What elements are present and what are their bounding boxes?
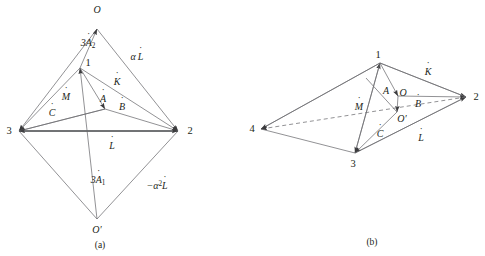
edge-1-to-3-M [19,68,80,131]
panel-b-vertex-3: 3 [350,159,355,170]
panel-b-dashed-diagonal [261,97,466,129]
panel-b-caption: (b) [366,238,377,248]
edge-1-to-2-K [80,68,178,131]
panel-a-edge-label-M: M [62,92,70,102]
panel-a-vertex-1: 1 [85,58,90,69]
panel-b-edge-label-K: K [425,67,432,77]
panel-a-vertex-3: 3 [6,126,11,137]
panel-a-edge-label-C: C [49,108,56,118]
panel-a-vertex-Oprime: O′ [92,225,101,235]
edge-b-mid-to-Oprime [366,78,397,112]
panel-b-vertex-O: O [399,88,406,98]
edge-b-O-to-2-B [398,96,466,97]
panel-b-inner-edges [261,63,466,153]
panel-a-vertex-O: O [93,5,100,15]
panel-a-edge-label-3A2: 3A2 [81,38,96,50]
panel-b-edge-label-B: B [415,99,421,109]
panel-b-vertex-4: 4 [249,124,254,135]
figure-root: O 1 3 2 O′ 3A2 α L K M A B C L 3A1 −α2L … [0,0,485,256]
diagram-vector-layer [0,0,485,256]
panel-b-vertex-1: 1 [375,50,380,61]
edge-center-to-2-B [105,109,178,131]
panel-a-edge-label-A: A [100,94,106,104]
panel-a-edge-label-K: K [114,77,121,87]
panel-a-vertex-2: 2 [187,126,192,137]
panel-b-outer-edges [261,63,466,153]
panel-b-edge-label-M: M [355,102,363,112]
edge-O-to-2-alphaL [97,29,178,131]
edge-b-1-to-4-M [261,63,380,129]
edge-3-to-Oprime [19,131,97,219]
panel-b-edge-label-A: A [383,86,389,96]
panel-a-edge-label-3A1: 3A1 [91,175,106,187]
panel-a-edge-label-alphaL: α L [131,52,144,62]
edge-3-to-center [19,109,105,131]
edge-Oprime-to-1-3A1 [80,68,97,219]
edge-b-2-to-4-dashed [261,97,466,129]
panel-b-edge-label-C: C [377,129,384,139]
panel-a-caption: (a) [95,241,106,251]
panel-b-vertex-Oprime: O′ [397,114,406,124]
panel-a-edge-label-L: L [109,141,115,151]
edge-b-4-to-3 [261,129,355,153]
panel-a-edge-label-neg-alpha2L: −α2L [146,181,167,191]
panel-b-vertex-2: 2 [473,92,478,103]
panel-a-edge-label-B: B [119,102,125,112]
edge-b-2-to-1 [380,63,466,97]
edge-b-O-to-Oprime [397,96,398,112]
panel-b-edge-label-L: L [418,133,424,143]
